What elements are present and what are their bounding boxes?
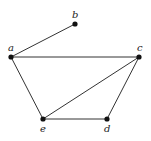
node-label-c: c — [137, 42, 143, 53]
edges — [11, 24, 139, 119]
node-label-a: a — [8, 42, 14, 53]
node-label-b: b — [72, 9, 78, 20]
node-e — [40, 116, 45, 121]
edge-a-e — [11, 57, 43, 119]
graph-diagram: abcde — [0, 0, 151, 141]
node-b — [72, 21, 77, 26]
node-a — [8, 54, 13, 59]
node-c — [136, 54, 141, 59]
edge-c-d — [107, 57, 139, 119]
edge-c-e — [43, 57, 139, 119]
node-label-d: d — [104, 123, 110, 134]
nodes — [8, 21, 141, 121]
node-d — [104, 116, 109, 121]
edge-a-b — [11, 24, 75, 57]
node-label-e: e — [40, 123, 46, 134]
labels: abcde — [8, 9, 143, 134]
